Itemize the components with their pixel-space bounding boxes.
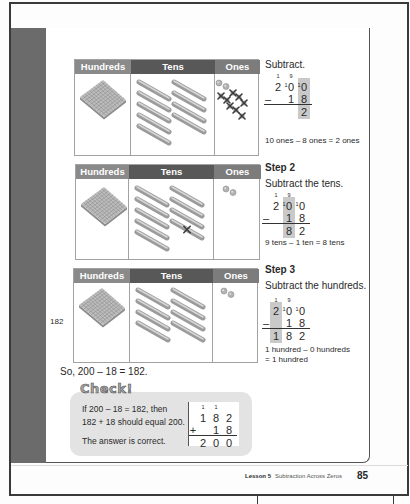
side-number-label: 182 [50, 317, 63, 326]
carry-digit: 1 [274, 73, 282, 80]
step-2-subtraction: 1911200–1882 [262, 192, 312, 240]
carry-digit: 9 [285, 297, 293, 304]
result-digit: 1 [272, 330, 280, 342]
carry-digit: 9 [287, 73, 295, 80]
top-digit: 2 [272, 200, 280, 212]
result-digit: 8 [285, 330, 293, 342]
place-value-table-1: Hundreds Tens Ones [74, 59, 259, 156]
top-digit: 2 [274, 81, 282, 93]
top-digit: 0 [285, 305, 293, 317]
answer-line [262, 328, 310, 329]
top-digit: 0 [298, 305, 306, 317]
carry-digit: 9 [285, 192, 293, 199]
result-digit: 2 [298, 225, 306, 237]
step-3-explanation-line-1: 1 hundred – 0 hundreds [265, 345, 350, 354]
header-tens: Tens [130, 269, 213, 283]
step-2-explanation: 9 tens – 1 ten = 8 tens [265, 238, 344, 247]
carry-digit: 1 [199, 404, 207, 411]
step-2-title: Step 2 [265, 162, 295, 173]
hundreds-cell [75, 74, 131, 155]
result-digit: 0 [212, 437, 220, 449]
step-2-instruction: Subtract the tens. [265, 178, 343, 189]
footer-lesson-title: Subtraction Across Zeros [275, 473, 342, 479]
header-tens: Tens [131, 60, 215, 74]
page-sidebar-bar [11, 28, 46, 463]
header-hundreds: Hundreds [76, 165, 129, 179]
result-digit: 2 [298, 330, 306, 342]
step-3-title: Step 3 [265, 264, 295, 275]
header-hundreds: Hundreds [74, 269, 130, 283]
hundreds-cell [76, 179, 129, 259]
top-digit: 0 [285, 200, 293, 212]
conclusion-text: So, 200 – 18 = 182. [60, 366, 148, 377]
answer-line [262, 223, 310, 224]
ones-cell [214, 179, 261, 259]
step-3-explanation-line-2: = 1 hundred [265, 355, 308, 364]
check-line-3: The answer is correct. [82, 436, 166, 446]
hundreds-cell [74, 283, 130, 362]
page-number: 85 [357, 470, 368, 481]
check-title: Check! [80, 381, 133, 396]
top-digit: 1 [199, 412, 207, 424]
place-value-table-3: Hundreds Tens Ones [73, 268, 258, 363]
next-page-edge-right [393, 495, 394, 504]
step-1-explanation: 10 ones – 8 ones = 2 ones [265, 136, 360, 145]
tens-cell [129, 179, 214, 259]
result-digit: 2 [199, 437, 207, 449]
page-frame-bottom [9, 494, 409, 496]
check-addition-box: 11182+18200 [188, 402, 239, 446]
top-digit: 8 [212, 412, 220, 424]
step-1-instruction: Subtract. [265, 59, 305, 70]
answer-line [189, 435, 237, 436]
header-tens: Tens [129, 165, 214, 179]
check-line-1: If 200 – 18 = 182, then [82, 404, 167, 414]
step-1-subtraction: 1911200–182 [264, 73, 314, 121]
top-digit: 0 [287, 81, 295, 93]
top-digit: 0 [298, 200, 306, 212]
next-page-edge-left [257, 495, 258, 504]
page-frame-top [9, 2, 409, 4]
carry-digit: 1 [212, 404, 220, 411]
ones-cell [215, 74, 260, 155]
footer-lesson: Lesson 5 [245, 473, 271, 479]
result-digit: 8 [285, 225, 293, 237]
tens-cell [130, 283, 213, 362]
page-divider [11, 465, 408, 466]
header-hundreds: Hundreds [75, 60, 131, 74]
ones-cell [213, 283, 259, 362]
tens-cell [131, 74, 215, 155]
place-value-table-2: Hundreds Tens Ones [75, 164, 260, 260]
step-3-instruction: Subtract the hundreds. [265, 280, 366, 291]
top-digit: 2 [272, 305, 280, 317]
page-frame-right [407, 2, 409, 495]
top-digit: 2 [225, 412, 233, 424]
header-ones: Ones [215, 60, 260, 74]
result-digit: 0 [225, 437, 233, 449]
result-digit: 2 [300, 106, 308, 118]
check-addition: 11182+18200 [189, 404, 239, 452]
carry-digit: 1 [272, 192, 280, 199]
header-ones: Ones [214, 165, 261, 179]
header-ones: Ones [213, 269, 259, 283]
top-digit: 0 [300, 81, 308, 93]
carry-digit: 1 [272, 297, 280, 304]
answer-line [264, 104, 312, 105]
step-3-subtraction: 1911200–18182 [262, 297, 312, 345]
check-line-2: 182 + 18 should equal 200. [82, 417, 185, 427]
